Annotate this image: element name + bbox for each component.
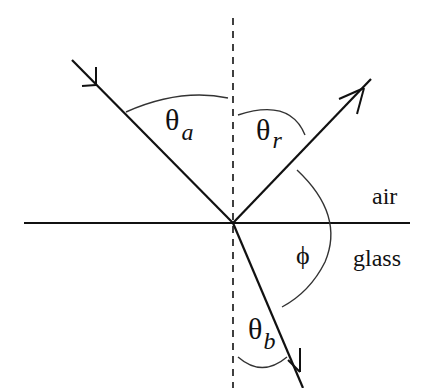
theta-b-label: θb — [248, 312, 275, 354]
glass-label: glass — [353, 245, 401, 271]
reflected-ray — [233, 79, 371, 223]
theta-r-label: θr — [256, 113, 282, 153]
reflected-arrow-icon — [339, 88, 364, 114]
phi-label: ϕ — [296, 241, 310, 270]
phi-arc — [282, 170, 331, 307]
theta-b-arc — [238, 357, 287, 368]
refraction-diagram: θa θr ϕ θb air glass — [0, 0, 440, 388]
theta-a-label: θa — [165, 103, 193, 145]
air-label: air — [372, 183, 397, 209]
